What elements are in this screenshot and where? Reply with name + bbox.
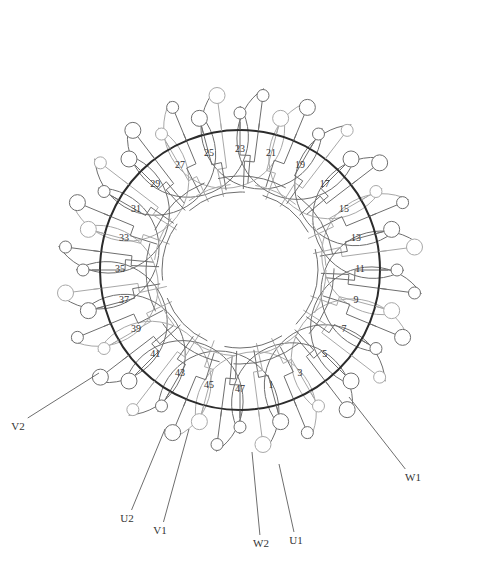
lead-line-u2 <box>132 429 165 510</box>
terminal-circle <box>98 343 110 355</box>
slot-number-41: 41 <box>150 348 160 359</box>
slot-conductor <box>323 296 377 327</box>
coil-loop <box>195 352 316 439</box>
lead-label-w2: W2 <box>253 537 269 549</box>
slot-number-19: 19 <box>295 159 305 170</box>
slot-labels: 1357911131517192123252729313335373941434… <box>115 143 365 394</box>
terminal-circle <box>71 331 83 343</box>
terminal-circle <box>313 400 325 412</box>
terminal-circle <box>391 264 403 276</box>
slot-conductor <box>306 317 368 344</box>
lead-label-w1: W1 <box>405 471 421 483</box>
terminal-circle <box>273 414 289 430</box>
terminal-circle <box>156 128 168 140</box>
terminal-circle <box>60 241 72 253</box>
coil-loop <box>59 154 170 273</box>
lead-label-v1: V1 <box>153 524 166 536</box>
terminal-circle <box>257 90 269 102</box>
slot-number-37: 37 <box>119 294 129 305</box>
terminal-circle <box>167 101 179 113</box>
terminal-circle <box>77 264 89 276</box>
terminal-circle <box>313 128 325 140</box>
terminal-circle <box>406 239 422 255</box>
slot-number-9: 9 <box>353 294 358 305</box>
slot-number-11: 11 <box>355 263 365 274</box>
coil-loop <box>322 194 409 315</box>
slot-number-15: 15 <box>339 203 349 214</box>
slot-conductor <box>112 196 174 223</box>
terminal-circle <box>165 425 181 441</box>
lead-line-w1 <box>349 397 405 469</box>
coil-loop <box>95 112 216 216</box>
coil-loop <box>237 89 356 200</box>
terminal-circle <box>395 329 411 345</box>
terminal-circle <box>121 151 137 167</box>
terminal-circle <box>234 107 246 119</box>
terminal-circle <box>98 186 110 198</box>
end-connection-arc <box>146 176 334 364</box>
slot-number-25: 25 <box>204 147 214 158</box>
terminal-circle <box>69 195 85 211</box>
terminal-circle <box>384 221 400 237</box>
slot-number-29: 29 <box>150 178 160 189</box>
terminal-circle <box>94 157 106 169</box>
lead-label-u2: U2 <box>120 512 133 524</box>
slot-number-21: 21 <box>266 147 276 158</box>
terminal-circle <box>156 400 168 412</box>
slot-number-31: 31 <box>131 203 141 214</box>
terminal-circle <box>234 421 246 433</box>
phase-leads: U1U2V1V2W1W2 <box>11 373 421 549</box>
terminal-circle <box>343 151 359 167</box>
terminal-circle <box>299 99 315 115</box>
coil-loop <box>127 106 248 197</box>
terminal-circle <box>372 155 388 171</box>
terminal-circle <box>127 404 139 416</box>
terminal-circle <box>211 438 223 450</box>
terminal-circle <box>191 110 207 126</box>
terminal-circle <box>341 124 353 136</box>
coil-loop <box>313 157 404 278</box>
coil-loop <box>124 341 243 452</box>
slot-number-7: 7 <box>341 323 346 334</box>
slot-number-5: 5 <box>322 348 327 359</box>
slot-number-33: 33 <box>119 232 129 243</box>
lead-label-u1: U1 <box>289 534 302 546</box>
slot-number-13: 13 <box>351 232 361 243</box>
coil-loop <box>264 325 385 429</box>
terminal-circle <box>80 303 96 319</box>
coil-loop <box>295 125 399 246</box>
slot-conductor <box>296 337 345 375</box>
coil-loop <box>71 225 158 346</box>
coil-loop <box>82 294 186 415</box>
slot-number-3: 3 <box>298 367 303 378</box>
terminal-circle <box>343 373 359 389</box>
end-connection-arc <box>162 192 318 348</box>
terminal-circle <box>301 427 313 439</box>
terminal-circle <box>339 402 355 418</box>
coil-loop <box>311 267 422 386</box>
terminal-circle <box>273 110 289 126</box>
terminal-circle <box>370 186 382 198</box>
terminal-circle <box>209 88 225 104</box>
terminal-circle <box>374 371 386 383</box>
slot-number-23: 23 <box>235 143 245 154</box>
terminal-circle <box>121 373 137 389</box>
terminal-circle <box>58 285 74 301</box>
coil-loop <box>76 262 167 383</box>
slot-number-39: 39 <box>131 323 141 334</box>
lead-line-w2 <box>252 452 260 535</box>
terminal-circle <box>384 303 400 319</box>
slot-number-1: 1 <box>269 379 274 390</box>
winding-diagram: 1357911131517192123252729313335373941434… <box>0 0 499 574</box>
slot-number-45: 45 <box>204 379 214 390</box>
terminal-circle <box>370 343 382 355</box>
slot-number-17: 17 <box>320 178 330 189</box>
lead-line-u1 <box>279 464 294 532</box>
lead-line-v1 <box>163 429 189 522</box>
terminal-circle <box>255 436 271 452</box>
slot-number-27: 27 <box>175 159 185 170</box>
terminal-circle <box>191 414 207 430</box>
slot-number-43: 43 <box>175 367 185 378</box>
coil-loop <box>164 101 285 188</box>
terminal-circle <box>408 287 420 299</box>
